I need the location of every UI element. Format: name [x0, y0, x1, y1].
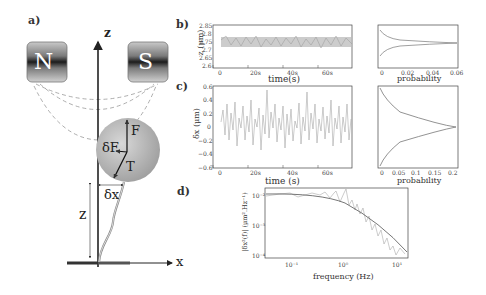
- c-xtick: 60s: [322, 169, 333, 176]
- magnet-north-label: N: [34, 49, 53, 74]
- c-prob-curve: [380, 88, 456, 166]
- magnet-south-label: S: [138, 49, 153, 74]
- d-xtick: 10¹: [392, 261, 402, 268]
- force-dF-label: δF: [102, 140, 119, 155]
- b-ytick: 2.75: [199, 38, 212, 45]
- extension-z-label: z: [79, 206, 86, 222]
- b-prob-xlabel: probability: [397, 74, 441, 83]
- b-time-trace: [221, 36, 352, 48]
- d-ytick: 10⁻³: [252, 222, 265, 229]
- c-ytick: 0.4: [203, 96, 213, 103]
- b-ytick: 2.65: [199, 54, 212, 61]
- panel-label-d: d): [177, 185, 190, 198]
- d-psd-fit: [266, 194, 407, 252]
- b-xtick: 0: [218, 69, 222, 76]
- c-xtick: 20s: [250, 169, 261, 176]
- d-psd-measured: [266, 189, 405, 255]
- d-ytick: 10⁻²: [252, 192, 265, 199]
- b-xtick: 20s: [250, 69, 261, 76]
- b-ytick: 2.7: [202, 46, 212, 53]
- d-psd-frame: [265, 188, 408, 258]
- c-ytick: 0: [207, 123, 211, 130]
- b-xlabel: time(s): [268, 74, 300, 84]
- c-ytick: −0.6: [198, 164, 213, 171]
- x-axis-label: x: [176, 254, 183, 269]
- force-T-label: T: [126, 159, 135, 174]
- c-ytick: −0.2: [198, 137, 213, 144]
- b-ytick: 2.6: [202, 62, 212, 69]
- c-xlabel: time (s): [265, 176, 300, 186]
- panel-label-b: b): [176, 18, 189, 31]
- d-xlabel: frequency (Hz): [313, 272, 374, 281]
- b-prob-xtick: 0: [380, 69, 384, 76]
- d-ylabel: |δx²(f)| (μm².Hz⁻¹): [241, 177, 249, 267]
- b-ytick: 2.85: [199, 22, 212, 29]
- c-ytick: −0.4: [198, 150, 213, 157]
- b-prob-xtick: 0.06: [450, 69, 463, 76]
- b-prob-frame: [378, 25, 458, 68]
- c-prob-xlabel: probability: [397, 176, 441, 185]
- c-ytick: 0.6: [203, 83, 213, 90]
- c-prob-xtick: 0.2: [448, 169, 458, 176]
- displacement-dx-label: δx: [104, 187, 119, 202]
- d-xtick: 10⁻¹: [285, 261, 298, 268]
- c-prob-xtick: 0.1: [411, 169, 421, 176]
- d-xtick: 10⁰: [338, 261, 348, 268]
- d-ytick: 10⁻⁴: [252, 252, 265, 259]
- c-prob-xtick: 0: [380, 169, 384, 176]
- z-axis-label: z: [104, 26, 111, 40]
- c-xtick: 0: [218, 169, 222, 176]
- c-prob-xtick: 0.15: [428, 169, 441, 176]
- panel-label-c: c): [176, 80, 188, 93]
- c-time-frame: [213, 86, 352, 168]
- b-ytick: 2.8: [202, 30, 212, 37]
- c-time-trace: [221, 90, 351, 150]
- c-prob-frame: [378, 86, 458, 168]
- c-ytick: 0.2: [203, 110, 213, 117]
- c-prob-xtick: 0.05: [392, 169, 405, 176]
- b-prob-curve: [380, 30, 457, 56]
- b-xtick: 60s: [322, 69, 333, 76]
- c-xtick: 40s: [287, 169, 298, 176]
- force-F-label: F: [131, 123, 140, 138]
